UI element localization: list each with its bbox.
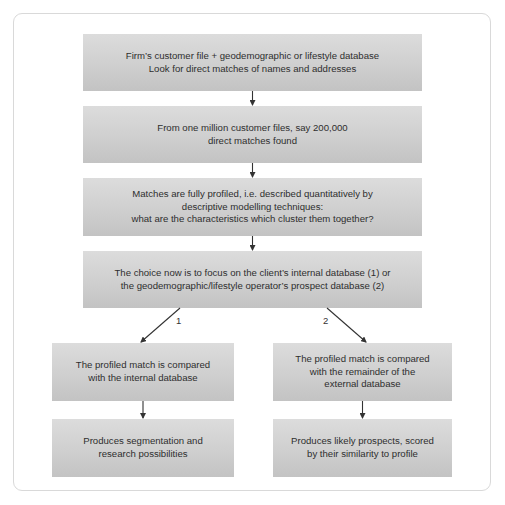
node-text: The profiled match is compared with the … [295,353,429,391]
node-matches-profiled: Matches are fully profiled, i.e. describ… [83,178,422,236]
node-text: Produces segmentation and research possi… [83,435,202,460]
node-direct-matches-found: From one million customer files, say 200… [83,106,422,163]
edge-label-option-1: 1 [176,315,181,326]
node-compare-internal: The profiled match is compared with the … [52,343,234,401]
node-compare-external: The profiled match is compared with the … [273,343,452,401]
node-text: The profiled match is compared with the … [76,359,210,384]
node-segmentation-research: Produces segmentation and research possi… [52,419,234,477]
node-text: Produces likely prospects, scored by the… [291,435,434,460]
node-text: Firm’s customer file + geodemographic or… [126,50,379,75]
edge-label-option-2: 2 [323,315,328,326]
node-customer-file-match: Firm’s customer file + geodemographic or… [83,34,422,91]
node-likely-prospects: Produces likely prospects, scored by the… [273,419,452,477]
node-text: Matches are fully profiled, i.e. describ… [131,188,373,226]
node-choice-of-database: The choice now is to focus on the client… [83,251,422,308]
node-text: The choice now is to focus on the client… [114,267,390,292]
node-text: From one million customer files, say 200… [157,122,347,147]
